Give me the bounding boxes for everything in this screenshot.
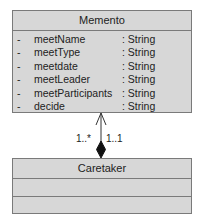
attribute-type: : String [122, 87, 155, 100]
filled-diamond-icon [97, 141, 106, 158]
attribute-type: : String [122, 100, 155, 113]
visibility-marker: - [17, 33, 21, 46]
attribute-row: - meetLeader : String [17, 73, 191, 86]
multiplicity-right: 1..1 [106, 133, 123, 144]
attribute-list: - meetName : String - meetType : String … [13, 31, 191, 113]
class-caretaker[interactable]: Caretaker [12, 158, 192, 214]
attribute-name: meetType [34, 46, 80, 59]
attribute-type: : String [122, 46, 155, 59]
visibility-marker: - [17, 46, 21, 59]
attributes-compartment [13, 179, 191, 197]
attribute-row: - meetParticipants : String [17, 87, 191, 100]
attribute-row: - meetdate : String [17, 60, 191, 73]
class-memento[interactable]: Memento - meetName : String - meetType :… [12, 10, 192, 113]
attribute-row: - meetType : String [17, 46, 191, 59]
class-name: Caretaker [13, 159, 191, 179]
visibility-marker: - [17, 60, 21, 73]
multiplicity-left: 1..* [76, 133, 91, 144]
visibility-marker: - [17, 73, 21, 86]
attribute-row: - meetName : String [17, 33, 191, 46]
visibility-marker: - [17, 87, 21, 100]
attribute-name: meetName [34, 33, 85, 46]
operations-compartment [13, 197, 191, 214]
attribute-name: meetdate [34, 60, 78, 73]
visibility-marker: - [17, 100, 21, 113]
attribute-type: : String [122, 60, 155, 73]
attribute-row: - decide : String [17, 100, 191, 113]
attribute-name: meetParticipants [34, 87, 112, 100]
class-name: Memento [13, 11, 191, 31]
attribute-type: : String [122, 73, 155, 86]
attribute-type: : String [122, 33, 155, 46]
attribute-name: meetLeader [34, 73, 90, 86]
attribute-name: decide [34, 100, 65, 113]
